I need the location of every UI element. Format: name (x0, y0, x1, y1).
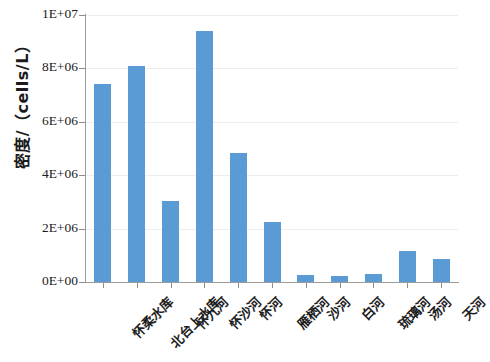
plot-area (86, 15, 458, 282)
x-axis-tick-mark (272, 283, 273, 288)
x-axis-tick-mark (373, 283, 374, 288)
x-axis-tick-label: 雁栖河 (292, 292, 333, 333)
y-axis-tick-labels: 1E+078E+066E+064E+062E+060E+00 (2, 0, 78, 300)
y-axis-tick-label: 8E+06 (8, 59, 78, 75)
x-axis-tick-mark (171, 283, 172, 288)
bar (331, 276, 348, 282)
y-axis-tick-label: 4E+06 (8, 166, 78, 182)
x-axis-tick-label: 沙河 (322, 292, 354, 324)
x-axis-tick-label: 怀九河 (191, 292, 232, 333)
x-axis-tick-mark (137, 283, 138, 288)
x-axis-tick-mark (103, 283, 104, 288)
bar (365, 274, 382, 282)
bar (128, 66, 145, 282)
y-axis-tick-mark (79, 175, 85, 176)
bar (94, 84, 111, 282)
y-axis-tick-mark (79, 282, 85, 283)
bar (264, 222, 281, 282)
x-axis-tick-label: 汤河 (424, 292, 456, 324)
y-axis-tick-label: 0E+00 (8, 273, 78, 289)
x-axis-tick-label: 白河 (356, 292, 388, 324)
bar (162, 201, 179, 282)
y-axis-tick-mark (79, 122, 85, 123)
bar (230, 153, 247, 282)
x-axis-tick-mark (407, 283, 408, 288)
x-axis-tick-mark (441, 283, 442, 288)
x-axis-tick-mark (204, 283, 205, 288)
x-axis-tick-mark (306, 283, 307, 288)
x-axis-tick-mark (238, 283, 239, 288)
bar (399, 251, 416, 282)
bar (196, 31, 213, 282)
x-axis-tick-label: 天河 (458, 292, 490, 324)
y-axis-tick-mark (79, 68, 85, 69)
x-axis-tick-label: 琉璃河 (394, 292, 435, 333)
gridline (86, 15, 458, 16)
x-axis-tick-label: 北台上水库 (165, 292, 224, 351)
y-axis-tick-mark (79, 15, 85, 16)
y-axis-tick-label: 2E+06 (8, 220, 78, 236)
x-axis-tick-label: 怀沙河 (225, 292, 266, 333)
y-axis-tick-mark (79, 229, 85, 230)
bar (297, 275, 314, 282)
x-axis-tick-mark (340, 283, 341, 288)
y-axis-tick-label: 6E+06 (8, 113, 78, 129)
x-axis-tick-label: 怀河 (255, 292, 287, 324)
bar (433, 259, 450, 282)
x-axis-tick-label: 怀柔水库 (127, 292, 177, 342)
y-axis-tick-label: 1E+07 (8, 6, 78, 22)
